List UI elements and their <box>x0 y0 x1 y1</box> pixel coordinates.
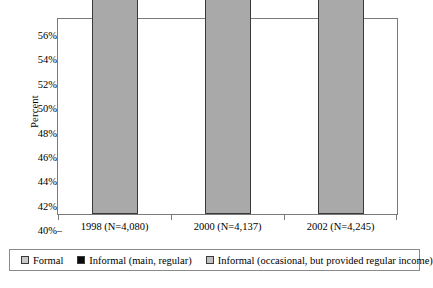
x-axis-tick-mark <box>284 215 285 220</box>
x-axis-category-label: 1998 (N=4,080) <box>58 221 171 232</box>
y-axis-tick-label: 54% <box>5 60 57 70</box>
legend-item-label: Formal <box>33 255 63 266</box>
legend-swatch-informal-occasional-icon <box>206 256 214 264</box>
y-axis-tick-label: 52% <box>5 85 57 95</box>
x-axis-labels: 1998 (N=4,080)2000 (N=4,137)2002 (N=4,24… <box>58 221 397 237</box>
bar-series-group: 0.7%3.75%48.38%1.64%4.23%47.84%1.41%4.97… <box>58 19 397 214</box>
x-axis-tick-mark <box>171 215 172 220</box>
legend-swatch-informal-main-icon <box>77 256 85 264</box>
bar-segment-informal-occasional[interactable]: 45.75% <box>318 0 364 214</box>
y-axis-tick-label: 46% <box>5 158 57 168</box>
bar-slot: 0.7%3.75%48.38% <box>58 19 171 214</box>
stacked-bar[interactable]: 0.7%3.75%48.38% <box>92 0 138 214</box>
bar-segment-informal-occasional[interactable]: 48.38% <box>92 0 138 214</box>
x-axis-tick-mark <box>58 215 59 220</box>
y-axis-tick-label: 42% <box>5 207 57 217</box>
y-axis-tick-label: 56% <box>5 36 57 46</box>
bar-segment-informal-occasional[interactable]: 47.84% <box>205 0 251 214</box>
y-axis-tick-label: 50% <box>5 109 57 119</box>
stacked-bar[interactable]: 1.41%4.97%45.75% <box>318 0 364 214</box>
legend-swatch-formal-icon <box>21 256 29 264</box>
legend-item-label: Informal (main, regular) <box>89 255 191 266</box>
y-axis-tick-label: 40% <box>5 231 57 241</box>
bar-slot: 1.64%4.23%47.84% <box>171 19 284 214</box>
x-axis-tick-mark <box>396 215 397 220</box>
y-axis: Percent 56%54%52%50%48%46%44%42%40% <box>0 18 57 215</box>
bar-slot: 1.41%4.97%45.75% <box>284 19 397 214</box>
legend-item-label: Informal (occasional, but provided regul… <box>218 255 433 266</box>
chart-legend: FormalInformal (main, regular)Informal (… <box>9 249 420 271</box>
stacked-bar[interactable]: 1.64%4.23%47.84% <box>205 0 251 214</box>
legend-item[interactable]: Formal <box>21 255 63 266</box>
legend-item[interactable]: Informal (main, regular) <box>77 255 191 266</box>
y-axis-tick-label: 44% <box>5 182 57 192</box>
y-axis-tick-label: 48% <box>5 134 57 144</box>
x-axis-category-label: 2002 (N=4,245) <box>284 221 397 232</box>
legend-item[interactable]: Informal (occasional, but provided regul… <box>206 255 433 266</box>
x-axis-category-label: 2000 (N=4,137) <box>171 221 284 232</box>
